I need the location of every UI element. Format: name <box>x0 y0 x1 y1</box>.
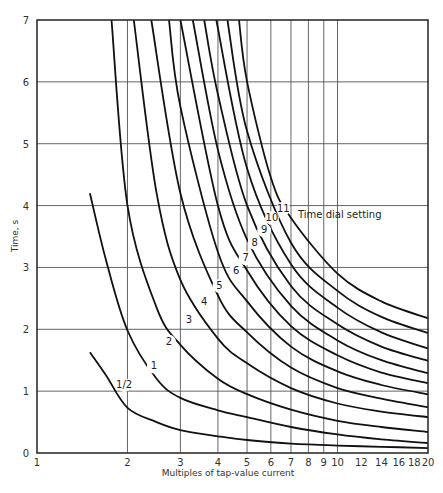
y-tick: 2 <box>23 324 29 335</box>
curve-11 <box>239 20 428 318</box>
curve-label: 4 <box>201 296 207 307</box>
curve-label: 1 <box>151 360 157 371</box>
x-tick: 14 <box>375 457 388 468</box>
y-axis-label: Time, s <box>10 219 20 253</box>
x-tick: 20 <box>422 457 435 468</box>
curve-label: 5 <box>216 280 222 291</box>
x-tick: 2 <box>124 457 130 468</box>
x-tick: 12 <box>355 457 368 468</box>
x-tick-labels: 123456789101214161820 <box>34 457 435 468</box>
y-tick: 0 <box>23 448 29 459</box>
curve-label: 11 <box>277 203 290 214</box>
x-tick: 9 <box>321 457 327 468</box>
y-tick: 4 <box>23 201 29 212</box>
x-tick: 10 <box>331 457 344 468</box>
legend-title: Time dial setting <box>297 209 382 220</box>
curve-label: 1/2 <box>116 379 132 390</box>
x-axis-label: Multiples of tap-value current <box>162 468 295 478</box>
curve-1-2 <box>90 352 428 448</box>
curve-9 <box>216 20 428 349</box>
x-tick: 8 <box>305 457 311 468</box>
x-tick: 6 <box>268 457 274 468</box>
curve-label: 2 <box>166 336 172 347</box>
curve-7 <box>193 20 428 373</box>
x-tick: 1 <box>34 457 40 468</box>
y-tick: 7 <box>23 15 29 26</box>
y-tick: 3 <box>23 262 29 273</box>
x-tick: 5 <box>244 457 250 468</box>
x-tick: 3 <box>177 457 183 468</box>
y-tick: 1 <box>23 386 29 397</box>
x-tick: 7 <box>288 457 294 468</box>
y-tick-labels: 01234567 <box>23 15 29 459</box>
x-tick: 16 <box>393 457 406 468</box>
x-tick: 4 <box>215 457 221 468</box>
y-tick: 6 <box>23 77 29 88</box>
curve-label: 7 <box>243 252 249 263</box>
y-tick: 5 <box>23 139 29 150</box>
curve-3 <box>134 20 428 417</box>
curve-8 <box>204 20 428 361</box>
x-tick: 18 <box>408 457 421 468</box>
curve-label: 9 <box>261 224 267 235</box>
curve-5 <box>169 20 428 394</box>
curve-label: 6 <box>233 265 239 276</box>
curve-label: 3 <box>186 314 192 325</box>
curve-label: 8 <box>251 237 257 248</box>
time-current-chart: 1/21234567891011 123456789101214161820 0… <box>0 0 443 493</box>
